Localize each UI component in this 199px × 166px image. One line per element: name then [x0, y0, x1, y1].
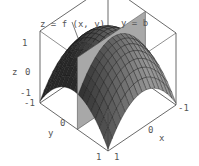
- surface-label: z = f (x, y): [40, 19, 105, 29]
- plane-label: y = b: [121, 18, 148, 28]
- x-axis-label: x: [159, 133, 165, 143]
- x-tick-0: 0: [148, 125, 153, 135]
- x-tick-neg1: -1: [178, 103, 189, 113]
- z-tick-1: 1: [22, 38, 27, 48]
- y-axis-label: y: [48, 128, 54, 138]
- y-tick-0: 0: [60, 118, 65, 128]
- z-tick-neg1: -1: [20, 88, 31, 98]
- x-tick-1: 1: [114, 152, 119, 162]
- z-axis-label: z: [12, 67, 17, 77]
- y-tick-1: 1: [96, 152, 101, 162]
- y-tick-neg1: -1: [24, 98, 35, 108]
- surface-plot-figure: z = f (x, y) y = b 1 z 0 -1 -1 0 y 1 1 0…: [0, 0, 199, 166]
- z-tick-0: 0: [25, 67, 30, 77]
- plot-canvas: z = f (x, y) y = b 1 z 0 -1 -1 0 y 1 1 0…: [0, 0, 199, 166]
